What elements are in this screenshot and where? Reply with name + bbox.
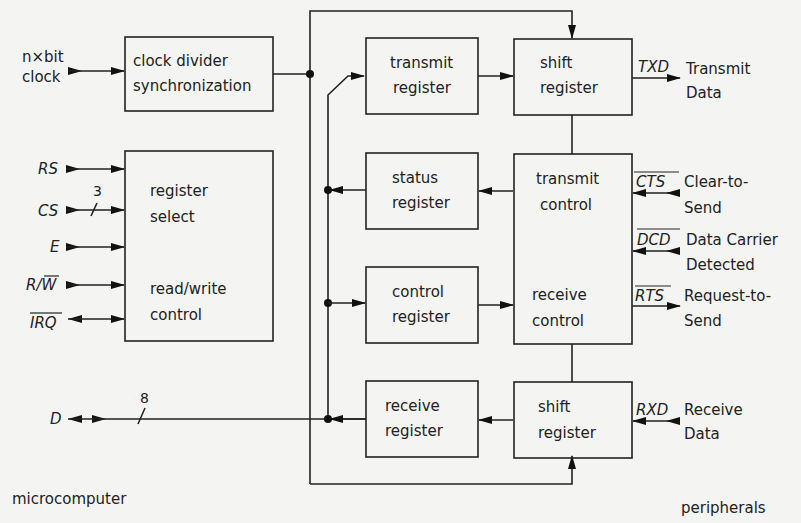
transmit-control-label-1: transmit [536,170,599,188]
e-signal: E [50,238,124,256]
rts-signal: RTS Request-to- Send [632,286,771,330]
rxd-desc-2: Data [684,425,720,443]
shift-register-rx-label-2: register [538,424,597,442]
dcd-label: DCD [637,231,671,249]
read-write-label-1: read/write [150,280,227,298]
rs-signal: RS [38,160,124,178]
txd-desc-2: Data [686,84,722,102]
cts-desc-1: Clear-to- [684,173,748,191]
register-select-block: register select read/write control [125,151,273,341]
rs-label: RS [38,160,58,178]
transmit-register-label-1: transmit [390,54,453,72]
receive-register-label-2: register [385,422,444,440]
cts-desc-2: Send [684,199,722,217]
receive-register-label-1: receive [385,397,440,415]
rxd-desc-1: Receive [684,401,743,419]
control-register-block: control register [366,267,478,343]
data-bus: D 8 [50,390,366,428]
e-label: E [50,238,60,256]
clock-bus-bottom [310,456,572,484]
receive-control-label-1: receive [532,286,587,304]
dcd-signal: DCD Data Carrier Detected [633,229,779,274]
d-label: D [50,410,62,428]
cs-label: CS [38,202,59,220]
cs-signal: CS 3 [38,183,124,220]
txd-desc-1: Transmit [685,60,750,78]
register-select-label-1: register [150,182,209,200]
transmit-register-block: transmit register [366,38,478,114]
shift-register-tx-label-1: shift [540,54,573,72]
txd-label: TXD [638,58,669,76]
clock-divider-label-1: clock divider [133,52,229,70]
clock-divider-block: clock divider synchronization [125,37,273,111]
transmit-receive-control-block: transmit control receive control [514,154,632,344]
clock-label-2: clock [22,68,61,86]
receive-register-block: receive register [366,381,478,457]
read-write-label-2: control [150,306,202,324]
irq-signal: IRQ [30,313,124,332]
receive-control-label-2: control [532,312,584,330]
rw-signal: R/W [26,276,124,294]
control-register-label-1: control [392,283,444,301]
clock-divider-label-2: synchronization [133,77,251,95]
serial-interface-diagram: n×bit clock clock divider synchronizatio… [0,0,801,523]
shift-register-rx-block: shift register [514,382,632,458]
register-select-label-2: select [150,208,195,226]
dcd-desc-1: Data Carrier [686,231,779,249]
status-register-label-2: register [392,194,451,212]
clock-label-1: n×bit [22,48,64,66]
shift-register-tx-block: shift register [514,39,632,115]
rw-label: R/W [26,276,57,294]
rxd-label: RXD [636,401,668,419]
control-register-label-2: register [392,308,451,326]
d-bus-width: 8 [140,390,149,406]
bus-slash-icon [138,408,145,424]
status-register-label-1: status [392,169,438,187]
rts-desc-2: Send [684,312,722,330]
cts-signal: CTS Clear-to- Send [633,172,748,217]
cts-label: CTS [636,173,666,191]
rts-label: RTS [635,287,665,305]
shift-register-rx-label-1: shift [538,398,571,416]
transmit-register-label-2: register [393,79,452,97]
clock-input: n×bit clock [22,48,124,86]
transmit-control-label-2: control [540,196,592,214]
txd-signal: TXD Transmit Data [632,58,750,102]
rxd-signal: RXD Receive Data [633,401,743,443]
shift-register-tx-label-2: register [540,79,599,97]
microcomputer-label: microcomputer [12,490,127,508]
status-register-block: status register [366,153,478,229]
irq-label: IRQ [30,314,57,332]
dcd-desc-2: Detected [686,256,755,274]
internal-data-bus [328,76,364,419]
rts-desc-1: Request-to- [684,287,771,305]
peripherals-label: peripherals [681,499,766,517]
cs-bus-width: 3 [93,183,102,199]
